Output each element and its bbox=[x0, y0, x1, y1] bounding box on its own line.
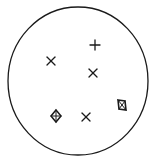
symbols-group bbox=[47, 40, 126, 122]
x-mark-icon bbox=[89, 69, 97, 77]
box-with-x-icon bbox=[118, 100, 126, 110]
diagram-canvas bbox=[0, 0, 154, 164]
circle-diagram bbox=[0, 0, 154, 164]
x-mark-icon bbox=[82, 113, 90, 121]
boundary-circle bbox=[8, 7, 148, 155]
diamond-with-cross-icon bbox=[51, 110, 61, 122]
x-mark-icon bbox=[47, 57, 55, 65]
plus-mark-icon bbox=[90, 40, 100, 50]
